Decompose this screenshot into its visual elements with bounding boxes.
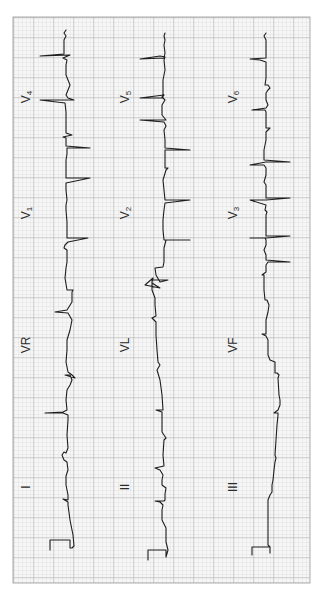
lead-label-vl: VL <box>118 337 132 352</box>
lead-label-ii: II <box>118 484 132 491</box>
ecg-strip: IVRV1V4IIVLV2V5IIIVFV3V6 <box>0 0 318 594</box>
svg-text:VR: VR <box>19 336 33 353</box>
svg-text:VF: VF <box>226 337 240 352</box>
lead-label-vr: VR <box>19 336 33 353</box>
lead-label-vf: VF <box>226 337 240 352</box>
lead-label-iii: III <box>226 482 240 492</box>
svg-text:I: I <box>19 485 33 488</box>
svg-text:VL: VL <box>118 337 132 352</box>
svg-text:II: II <box>118 484 132 491</box>
lead-label-i: I <box>19 485 33 488</box>
svg-text:III: III <box>226 482 240 492</box>
